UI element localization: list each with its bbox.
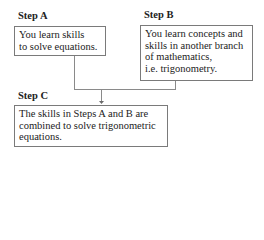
step-c-text-line: combined to solve trigonometric <box>19 120 163 132</box>
step-c-label: Step C <box>18 90 48 102</box>
step-c-box: The skills in Steps A and B are combined… <box>14 105 168 147</box>
step-c-text-line: The skills in Steps A and B are <box>19 108 163 120</box>
step-c-text-line: equations. <box>19 131 163 143</box>
